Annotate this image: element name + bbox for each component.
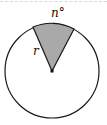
center-point [51, 70, 54, 73]
shaded-sector [33, 23, 74, 71]
circle-sector-diagram: n° r [0, 0, 107, 125]
radius-label: r [33, 44, 40, 58]
angle-label: n° [51, 6, 65, 20]
